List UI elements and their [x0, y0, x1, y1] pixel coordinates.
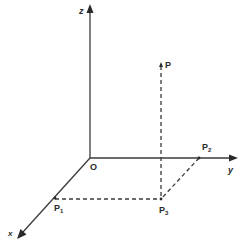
- point-p2-label: P2: [202, 142, 212, 153]
- coordinate-diagram: z y x O P P1 P2 P3: [0, 0, 246, 246]
- point-p1-subscript: 1: [60, 208, 64, 214]
- point-p2-marker: [198, 157, 201, 160]
- y-axis-label: y: [227, 165, 234, 175]
- point-p1-label: P1: [54, 203, 64, 214]
- point-p-marker: [159, 62, 163, 67]
- projection-line-p2-to-p3: [161, 158, 199, 199]
- point-p2-subscript: 2: [208, 147, 212, 153]
- point-p1-marker: [54, 197, 57, 200]
- z-axis-label: z: [78, 6, 84, 16]
- point-p3-marker: [160, 198, 163, 201]
- z-axis-arrowhead: [87, 4, 94, 13]
- x-axis-label: x: [7, 229, 13, 238]
- origin-label: O: [90, 162, 97, 172]
- point-p3-subscript: 3: [165, 210, 169, 216]
- diagram-canvas: z y x O P P1 P2 P3: [0, 0, 246, 246]
- x-axis: [23, 158, 90, 232]
- point-p3-label: P3: [159, 205, 169, 216]
- y-axis-arrowhead: [229, 155, 238, 162]
- point-p-label: P: [165, 60, 171, 70]
